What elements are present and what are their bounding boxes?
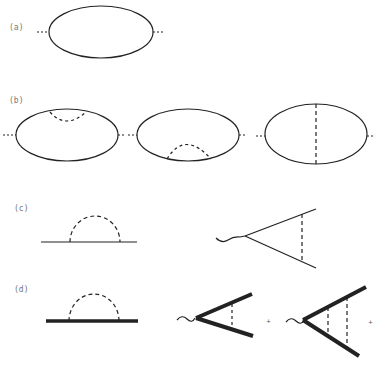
diagram-a-bubble: [37, 6, 163, 58]
plus-connector-1: +: [266, 317, 271, 324]
diagram-d3-ladder-two-rungs: [286, 287, 366, 356]
diagram-b2-lower-self-energy: [128, 109, 247, 161]
diagram-d1-dressed-self-energy: [46, 294, 138, 321]
diagram-c2-vertex: [216, 209, 316, 268]
plus-connector-2: +: [368, 318, 373, 325]
diagram-d2-ladder-one-rung: [177, 294, 253, 336]
diagram-c1-self-energy: [41, 216, 137, 242]
feynman-diagrams: + +: [0, 0, 377, 365]
diagram-b3-exchange: [256, 104, 375, 164]
diagram-b1-upper-self-energy: [3, 109, 124, 161]
